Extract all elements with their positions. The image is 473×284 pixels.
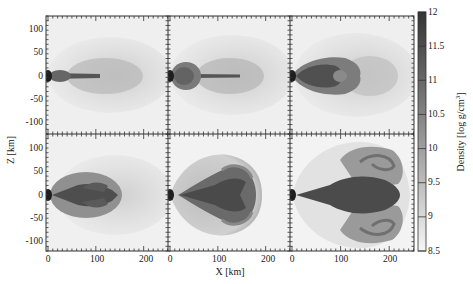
panel-3 <box>44 134 173 251</box>
y-tick-label: 100 <box>29 143 44 153</box>
density-figure: 100 50 0 -50 -100 100 50 0 -50 -100 0 10… <box>0 0 473 284</box>
y-tick-label: -100 <box>26 117 44 127</box>
panel-4 <box>166 134 290 251</box>
y-axis-top: 100 50 0 -50 -100 <box>26 24 44 127</box>
colorbar-tick-label: 9.5 <box>428 177 440 187</box>
y-tick-label: 100 <box>29 24 44 34</box>
x-tick-label: 200 <box>261 254 276 264</box>
panel-2 <box>288 16 418 134</box>
colorbar-tick-label: 9 <box>428 211 433 221</box>
y-tick-label: -50 <box>30 213 43 223</box>
panel-5 <box>288 134 414 251</box>
colorbar-label-close: ] <box>455 92 466 95</box>
colorbar-tick-label: 8.5 <box>428 246 440 256</box>
y-axis-label: Z [km] <box>5 136 16 164</box>
colorbar-tick-label: 11 <box>428 75 437 85</box>
colorbar-tick-label: 10 <box>428 143 438 153</box>
y-tick-label: 50 <box>34 47 44 57</box>
x-tick-label: 200 <box>383 254 398 264</box>
colorbar: 12 11.5 11 10.5 10 9.5 9 8.5 Density [lo… <box>418 7 466 256</box>
y-axis-bottom: 100 50 0 -50 -100 <box>26 143 44 246</box>
y-tick-label: -50 <box>30 94 43 104</box>
x-tick-label: 100 <box>212 254 227 264</box>
colorbar-gradient <box>418 12 426 251</box>
x-axis: 0 100 200 0 100 200 0 100 200 <box>46 254 398 264</box>
panel-1 <box>166 16 294 134</box>
panel-0 <box>44 16 172 134</box>
x-tick-label: 200 <box>139 254 154 264</box>
x-tick-label: 0 <box>46 254 51 264</box>
x-axis-label: X [km] <box>215 266 244 277</box>
x-tick-label: 100 <box>334 254 349 264</box>
x-tick-label: 0 <box>168 254 173 264</box>
colorbar-label-text: Density [log g/cm <box>455 99 466 171</box>
colorbar-tick-label: 11.5 <box>428 41 445 51</box>
x-tick-label: 0 <box>290 254 295 264</box>
colorbar-tick-label: 12 <box>428 7 438 17</box>
colorbar-label: Density [log g/cm3] <box>454 92 466 171</box>
y-tick-label: 50 <box>34 166 44 176</box>
x-tick-label: 100 <box>90 254 105 264</box>
y-tick-label: 0 <box>38 190 43 200</box>
y-tick-label: 0 <box>38 71 43 81</box>
y-tick-label: -100 <box>26 236 44 246</box>
colorbar-tick-label: 10.5 <box>428 109 445 119</box>
